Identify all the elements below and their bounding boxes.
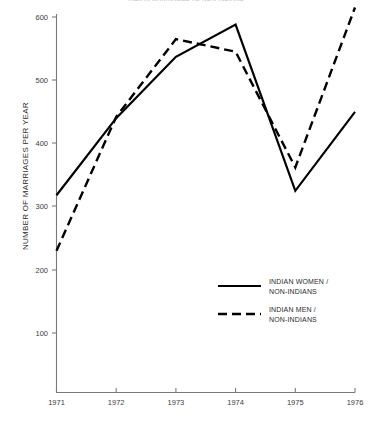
y-tick-label-200: 200	[35, 266, 48, 275]
y-axis-title-group: NUMBER OF MARRIAGES PER YEAR	[21, 102, 30, 250]
x-axis: 1971 1972 1973 1974 1975 1976	[48, 388, 363, 407]
series-line-indian-men	[57, 8, 356, 251]
x-tick-label-1972: 1972	[108, 398, 125, 407]
legend-label-women-line1: INDIAN WOMEN /	[269, 278, 328, 285]
y-tick-label-500: 500	[35, 76, 48, 85]
series-line-indian-women	[57, 25, 356, 196]
y-tick-label-600: 600	[35, 13, 48, 22]
chart-legend: INDIAN WOMEN / NON-INDIANS INDIAN MEN / …	[218, 278, 328, 323]
x-tick-label-1973: 1973	[168, 398, 185, 407]
x-tick-label-1974: 1974	[227, 398, 244, 407]
chart-figure: INDIAN MARRIAGES TO NON-INDIANS 600 500 …	[0, 0, 372, 425]
x-tick-label-1971: 1971	[48, 398, 65, 407]
y-axis-title: NUMBER OF MARRIAGES PER YEAR	[21, 102, 30, 250]
y-tick-label-100: 100	[35, 329, 48, 338]
y-tick-label-300: 300	[35, 202, 48, 211]
legend-label-men-line2: NON-INDIANS	[269, 316, 317, 323]
x-tick-label-1975: 1975	[287, 398, 304, 407]
line-chart-plot: 600 500 400 300 200 100 NUMBER OF MARRIA…	[0, 0, 372, 425]
legend-label-men-line1: INDIAN MEN /	[269, 306, 316, 313]
y-axis: 600 500 400 300 200 100	[35, 13, 56, 393]
legend-label-women-line2: NON-INDIANS	[269, 288, 317, 295]
y-tick-label-400: 400	[35, 139, 48, 148]
x-tick-label-1976: 1976	[347, 398, 364, 407]
